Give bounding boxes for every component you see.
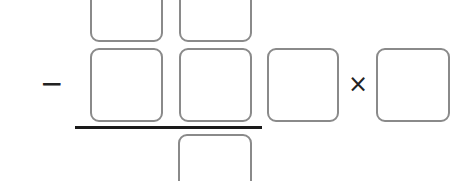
- minuend-ones-box[interactable]: [179, 0, 252, 42]
- sum-line: [75, 126, 262, 129]
- minus-sign: −: [40, 70, 63, 98]
- subtrahend-ones-box[interactable]: [179, 48, 252, 122]
- factor-b-box[interactable]: [376, 48, 450, 122]
- result-box[interactable]: [178, 134, 252, 181]
- subtrahend-tens-box[interactable]: [90, 48, 163, 122]
- factor-a-box[interactable]: [267, 48, 339, 122]
- times-sign: ×: [348, 72, 368, 96]
- minuend-tens-box[interactable]: [90, 0, 163, 42]
